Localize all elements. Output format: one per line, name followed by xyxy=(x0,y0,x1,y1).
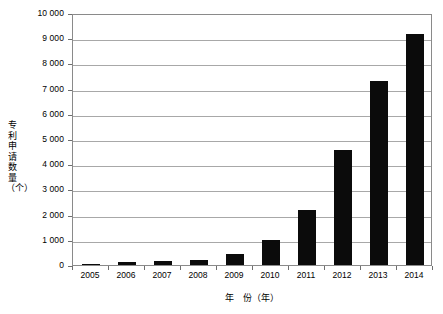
y-axis-tick xyxy=(68,241,72,242)
gridline xyxy=(73,40,431,41)
x-axis-tick-label: 2014 xyxy=(405,270,424,280)
x-axis-title: 年 份（年） xyxy=(72,291,432,304)
x-axis-tick xyxy=(252,266,253,270)
x-axis-tick xyxy=(432,266,433,270)
x-axis-tick-label: 2006 xyxy=(117,270,136,280)
bar xyxy=(262,240,280,265)
bar xyxy=(334,150,352,265)
x-axis-tick xyxy=(288,266,289,270)
y-axis-tick xyxy=(68,14,72,15)
bar xyxy=(190,260,208,265)
bar xyxy=(118,262,136,265)
y-axis-tick xyxy=(68,190,72,191)
x-axis-tick-label: 2005 xyxy=(81,270,100,280)
y-axis-tick xyxy=(68,140,72,141)
y-axis-title: 专利申请数量（个） xyxy=(6,120,19,194)
y-axis-tick xyxy=(68,64,72,65)
x-axis-tick xyxy=(216,266,217,270)
bar xyxy=(154,261,172,265)
x-axis-tick xyxy=(180,266,181,270)
x-axis-tick xyxy=(72,266,73,270)
y-axis-tick xyxy=(68,39,72,40)
bar xyxy=(298,210,316,265)
plot-area xyxy=(72,14,432,266)
x-axis-tick xyxy=(324,266,325,270)
y-axis-tick xyxy=(68,115,72,116)
x-axis-tick-label: 2007 xyxy=(153,270,172,280)
y-axis-tick xyxy=(68,90,72,91)
x-axis-tick xyxy=(360,266,361,270)
bar xyxy=(82,264,100,266)
bar xyxy=(406,34,424,265)
bar xyxy=(370,81,388,265)
x-axis-tick-label: 2008 xyxy=(189,270,208,280)
y-axis-tick xyxy=(68,216,72,217)
x-axis-tick xyxy=(144,266,145,270)
x-axis-tick-label: 2012 xyxy=(333,270,352,280)
x-axis-tick xyxy=(396,266,397,270)
y-axis-tick xyxy=(68,165,72,166)
bar xyxy=(226,254,244,265)
x-axis-tick-label: 2013 xyxy=(369,270,388,280)
x-axis-tick-label: 2009 xyxy=(225,270,244,280)
gridline xyxy=(73,65,431,66)
x-axis-tick xyxy=(108,266,109,270)
bar-chart: 专利申请数量（个） 01 0002 0003 0004 0005 0006 00… xyxy=(0,0,443,314)
x-axis-tick-label: 2011 xyxy=(297,270,315,280)
x-axis-tick-label: 2010 xyxy=(261,270,280,280)
